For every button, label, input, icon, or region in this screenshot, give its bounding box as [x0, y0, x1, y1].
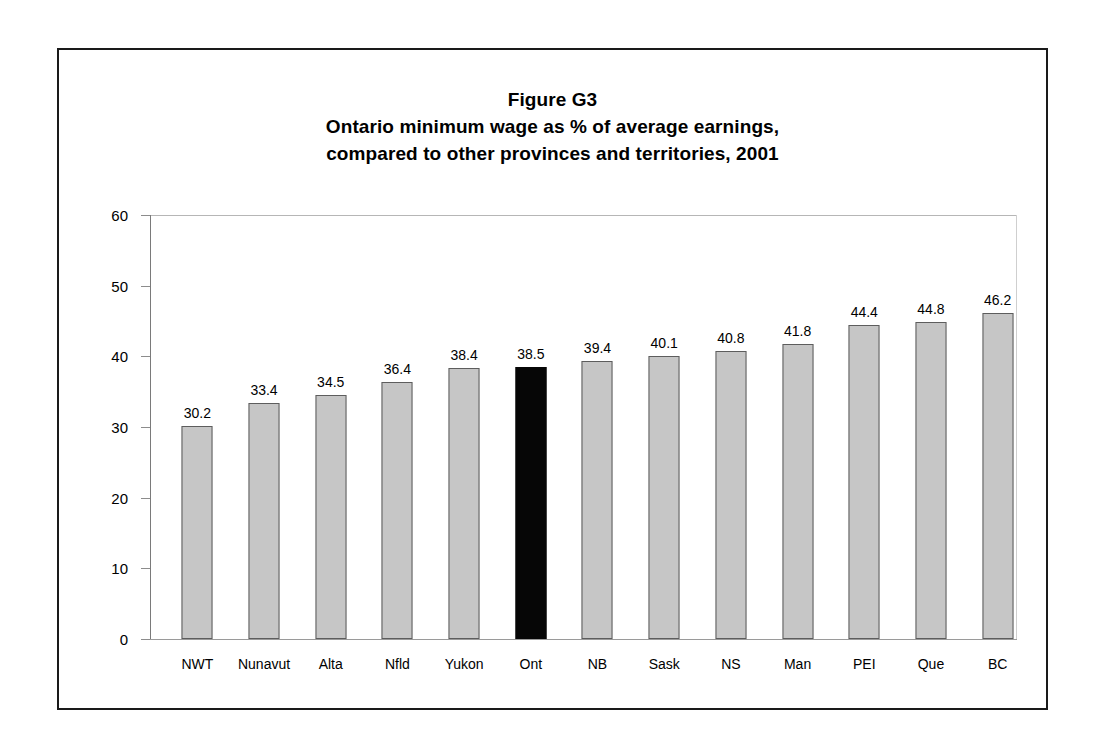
- bar-value-label: 44.8: [917, 301, 944, 317]
- bar-group: 40.1Sask: [631, 215, 698, 639]
- bar-group: 46.2BC: [964, 215, 1031, 639]
- bar-alta[interactable]: [315, 395, 346, 639]
- y-axis-line: [150, 215, 151, 639]
- bar-value-label: 34.5: [317, 374, 344, 390]
- figure-frame: Figure G3 Ontario minimum wage as % of a…: [57, 48, 1048, 710]
- bar-group: 41.8Man: [764, 215, 831, 639]
- x-axis-category-label: BC: [988, 656, 1007, 672]
- bar-chart-plot-area: 0102030405060 30.2NWT33.4Nunavut34.5Alta…: [150, 215, 1017, 639]
- y-axis-label: 30: [111, 419, 128, 436]
- y-axis-tick: [141, 498, 150, 499]
- x-axis-category-label: Nunavut: [238, 656, 290, 672]
- bar-man[interactable]: [782, 344, 813, 639]
- bar-value-label: 44.4: [851, 304, 878, 320]
- x-axis-line: [150, 639, 1017, 640]
- y-axis-tick: [141, 639, 150, 640]
- y-axis-tick: [141, 356, 150, 357]
- bar-value-label: 38.4: [450, 347, 477, 363]
- y-axis-label: 50: [111, 277, 128, 294]
- bar-value-label: 40.1: [651, 335, 678, 351]
- bar-ns[interactable]: [715, 351, 746, 639]
- bar-ont[interactable]: [515, 367, 546, 639]
- y-axis-label: 20: [111, 489, 128, 506]
- x-axis-category-label: NB: [588, 656, 607, 672]
- bar-value-label: 30.2: [184, 405, 211, 421]
- x-axis-category-label: NWT: [181, 656, 213, 672]
- bar-group: 39.4NB: [564, 215, 631, 639]
- bar-value-label: 41.8: [784, 323, 811, 339]
- bar-value-label: 46.2: [984, 292, 1011, 308]
- x-axis-category-label: PEI: [853, 656, 876, 672]
- y-axis-tick: [141, 427, 150, 428]
- bar-group: 38.4Yukon: [431, 215, 498, 639]
- bar-pei[interactable]: [849, 325, 880, 639]
- bar-nfld[interactable]: [382, 382, 413, 639]
- y-axis-label: 60: [111, 207, 128, 224]
- x-axis-category-label: NS: [721, 656, 740, 672]
- x-axis-category-label: Ont: [520, 656, 543, 672]
- bar-group: 33.4Nunavut: [231, 215, 298, 639]
- figure-title-line-1: Figure G3: [59, 86, 1046, 113]
- bar-group: 44.8Que: [898, 215, 965, 639]
- y-axis-label: 40: [111, 348, 128, 365]
- bar-bc[interactable]: [982, 313, 1013, 639]
- bar-nwt[interactable]: [182, 426, 213, 639]
- y-axis-label: 10: [111, 560, 128, 577]
- bar-value-label: 38.5: [517, 346, 544, 362]
- bar-yukon[interactable]: [449, 368, 480, 639]
- bar-group: 38.5Ont: [497, 215, 564, 639]
- y-axis-label: 0: [120, 631, 128, 648]
- bar-group: 30.2NWT: [164, 215, 231, 639]
- bar-group: 44.4PEI: [831, 215, 898, 639]
- y-axis-tick: [141, 568, 150, 569]
- bar-sask[interactable]: [649, 356, 680, 639]
- bar-value-label: 40.8: [717, 330, 744, 346]
- x-axis-category-label: Sask: [649, 656, 680, 672]
- x-axis-category-label: Alta: [319, 656, 343, 672]
- x-axis-category-label: Yukon: [445, 656, 484, 672]
- x-axis-category-label: Nfld: [385, 656, 410, 672]
- bar-value-label: 36.4: [384, 361, 411, 377]
- figure-title-line-2: Ontario minimum wage as % of average ear…: [59, 113, 1046, 140]
- bar-group: 34.5Alta: [297, 215, 364, 639]
- bar-nb[interactable]: [582, 361, 613, 639]
- y-axis-tick: [141, 286, 150, 287]
- figure-title-line-3: compared to other provinces and territor…: [59, 140, 1046, 167]
- y-axis-tick: [141, 215, 150, 216]
- figure-title: Figure G3 Ontario minimum wage as % of a…: [59, 86, 1046, 167]
- bar-que[interactable]: [915, 322, 946, 639]
- bar-value-label: 33.4: [250, 382, 277, 398]
- bar-value-label: 39.4: [584, 340, 611, 356]
- x-axis-category-label: Que: [918, 656, 944, 672]
- x-axis-category-label: Man: [784, 656, 811, 672]
- bar-nunavut[interactable]: [249, 403, 280, 639]
- bar-group: 36.4Nfld: [364, 215, 431, 639]
- bar-group: 40.8NS: [698, 215, 765, 639]
